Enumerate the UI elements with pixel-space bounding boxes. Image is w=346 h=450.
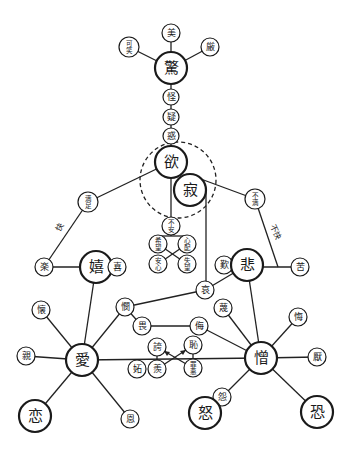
node-zo: 憎 [245,342,277,374]
node-label: 満 [252,199,259,207]
node-label: 配 [184,244,191,252]
node-label: 望 [184,263,191,272]
node-label: 怒 [198,404,213,422]
node-label: 恥 [189,340,198,350]
node-ai_sad: 哀 [196,281,214,299]
node-label: 疑 [167,112,176,122]
node-en: 厭 [308,348,326,366]
node-kawa: 可笑 [119,37,139,57]
node-label: 嬉 [89,258,104,276]
edge-label: 快 [53,221,66,233]
node-label: 怪 [167,91,176,102]
node-ken: 憫 [116,298,134,316]
node-label: 侮 [195,320,204,331]
node-ki_joy: 嬉 [80,251,112,283]
node-yoku: 欲 [155,146,187,178]
node-mei: 侮 [190,317,208,335]
node-kyo_proud: 誇 [148,338,166,356]
node-raku: 楽 [35,258,53,276]
node-label: 憫 [121,301,130,312]
node-ben: 蔑 [214,299,232,317]
node-on: 恩 [121,410,139,428]
node-zaiaku: 罪悪 [184,359,202,377]
node-kyofu: 恐 [301,396,333,428]
node-label: 楽 [40,261,49,272]
node-label: 蔑 [219,302,228,313]
node-label: 厭 [313,352,322,362]
node-label: 哀 [201,284,210,295]
node-label: 安 [168,225,175,234]
node-fuman: 不満 [245,189,265,209]
node-ki: 喜 [108,258,126,276]
node-kyo: 驚 [155,52,187,84]
node-label: 歎 [220,259,229,270]
node-label: 美 [167,27,176,38]
node-label: 望 [155,243,162,252]
node-ku: 苦 [291,258,309,276]
node-label: 恐 [310,403,325,421]
node-kai_nat: 懐 [32,301,50,319]
node-waku: 惑 [163,128,179,144]
node-label: 惑 [167,130,176,141]
node-seki: 寂 [174,174,206,206]
node-label: 欲 [164,153,179,171]
node-label: 憎 [254,349,269,367]
node-shi: 畏 [133,317,151,335]
node-label: 笑 [126,46,133,55]
node-manzoku: 満足 [78,192,98,212]
node-label: 親 [22,350,31,361]
node-label: 妬 [133,363,142,374]
node-chi: 恥 [184,336,202,354]
node-label: 寂 [183,181,198,199]
node-label: 厳 [206,41,215,52]
emotion-diagram: 快不快 驚美可笑厳怪疑惑欲寂満足不満不安希望心配安心失望楽嬉喜歎悲苦哀憫畏侮蔑誇… [0,0,346,450]
node-label: 悪 [190,368,197,376]
node-hi: 悲 [231,249,263,281]
node-label: 羨 [153,363,162,374]
node-gen: 厳 [201,38,219,56]
node-to: 妬 [128,360,146,378]
node-kibo: 希望 [149,235,167,253]
node-label: 恋 [28,407,43,425]
node-label: 恩 [126,414,135,424]
node-do: 怒 [189,397,221,429]
node-label: 苦 [296,261,305,272]
node-bi: 美 [162,24,180,42]
node-anshin: 安心 [149,255,167,273]
node-fuan: 不安 [162,217,180,235]
node-label: 愛 [75,351,90,369]
node-ryo: 羨 [148,360,166,378]
node-label: 喜 [113,261,122,272]
node-gi: 疑 [163,109,179,125]
node-kui: 悔 [289,308,307,326]
node-label: 畏 [138,321,147,331]
node-label: 心 [155,264,162,272]
node-shin: 親 [17,347,35,365]
node-label: 悲 [240,256,255,274]
node-shinpai: 心配 [178,235,196,253]
node-koi: 恋 [19,400,51,432]
node-label: 懐 [37,304,46,315]
edge-label: 不快 [268,223,284,242]
node-shitsubo: 失望 [178,255,196,273]
node-label: 誇 [153,341,162,352]
node-label: 驚 [164,59,179,77]
node-kai: 怪 [163,89,179,105]
node-label: 悔 [294,311,303,322]
node-ai_love: 愛 [66,344,98,376]
node-label: 怨 [218,391,227,402]
node-label: 足 [85,202,92,210]
